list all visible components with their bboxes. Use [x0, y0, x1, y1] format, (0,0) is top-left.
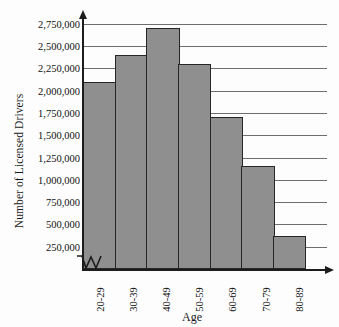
bar [241, 166, 274, 269]
y-axis-tick-label: 750,000 [22, 197, 80, 208]
bar [146, 28, 179, 269]
y-axis-tick-label: 1,500,000 [22, 130, 80, 141]
y-axis-tick-labels: 2,750,0002,500,0002,250,0002,000,0001,75… [22, 0, 80, 327]
bar [273, 236, 306, 269]
y-axis-tick-label: 1,250,000 [22, 152, 80, 163]
bar [210, 117, 243, 269]
y-axis-tick-label: 2,000,000 [22, 85, 80, 96]
bar [178, 64, 211, 269]
chart-figure: Number of Licensed Drivers 2,750,0002,50… [0, 0, 339, 327]
y-axis-tick-label: 1,750,000 [22, 107, 80, 118]
bar [115, 55, 148, 269]
y-axis-tick-label: 250,000 [22, 241, 80, 252]
x-axis-line [82, 269, 326, 271]
y-axis-tick-label: 2,750,000 [22, 18, 80, 29]
plot-area [82, 14, 334, 270]
y-axis-tick-label: 2,250,000 [22, 63, 80, 74]
x-axis-tick-labels: 20-2930-3940-4950-5960-6970-7980-89 [82, 272, 334, 312]
bar [83, 82, 116, 269]
y-axis-arrow-icon [79, 10, 87, 19]
bar-series [83, 14, 305, 269]
y-axis-line [82, 18, 84, 270]
y-axis-tick-label: 2,500,000 [22, 41, 80, 52]
y-axis-tick-label: 1,000,000 [22, 174, 80, 185]
y-axis-tick-label: 500,000 [22, 219, 80, 230]
x-axis-title: Age [82, 310, 302, 325]
